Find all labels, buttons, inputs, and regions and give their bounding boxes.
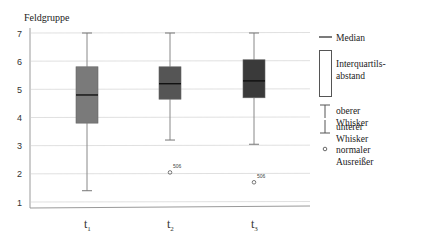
legend-lower-whisker: unterer Whisker xyxy=(318,120,334,136)
legend-iqr: Interquartils- abstand xyxy=(318,50,334,100)
legend-upper-whisker: oberer Whisker xyxy=(318,104,334,120)
median-line-icon xyxy=(318,32,334,42)
y-tick-label: 7 xyxy=(17,29,22,39)
box-t1 xyxy=(76,33,98,191)
iqr-box-icon xyxy=(318,50,334,98)
y-tick-label: 3 xyxy=(17,141,22,151)
legend-outlier-line1: normaler xyxy=(336,145,370,155)
y-tick-label: 5 xyxy=(17,85,22,95)
legend-iqr-line2: abstand xyxy=(336,71,365,81)
legend-outlier: normaler Ausreißer xyxy=(318,144,334,156)
iqr-box xyxy=(159,67,181,99)
x-axis-labels: t1t2t3 xyxy=(84,217,258,233)
box-series: 506506 xyxy=(76,33,266,191)
legend-iqr-line1: Interquartils- xyxy=(336,59,386,69)
outlier-label: 506 xyxy=(173,163,182,169)
gridline xyxy=(31,173,310,174)
gridline xyxy=(31,202,310,203)
x-tick-label: t1 xyxy=(84,217,91,233)
iqr-box xyxy=(243,60,265,98)
y-tick-label: 1 xyxy=(17,198,22,208)
box-t2: 506 xyxy=(159,33,182,174)
y-tick-label: 6 xyxy=(17,57,22,67)
outlier-label: 506 xyxy=(257,173,266,179)
x-tick-label: t3 xyxy=(251,217,258,233)
legend-outlier-line2: Ausreißer xyxy=(336,157,373,167)
y-axis-ticks: 1234567 xyxy=(17,29,22,208)
x-tick-label: t2 xyxy=(167,217,174,233)
outlier-point xyxy=(252,180,256,184)
y-tick-label: 4 xyxy=(17,113,22,123)
lower-whisker-icon xyxy=(318,120,334,134)
box-t3: 506 xyxy=(243,33,266,184)
y-tick-label: 2 xyxy=(17,169,22,179)
legend-median: Median xyxy=(318,32,334,44)
upper-whisker-icon xyxy=(318,104,334,118)
outlier-circle-icon xyxy=(318,144,334,154)
gridline xyxy=(31,145,310,146)
